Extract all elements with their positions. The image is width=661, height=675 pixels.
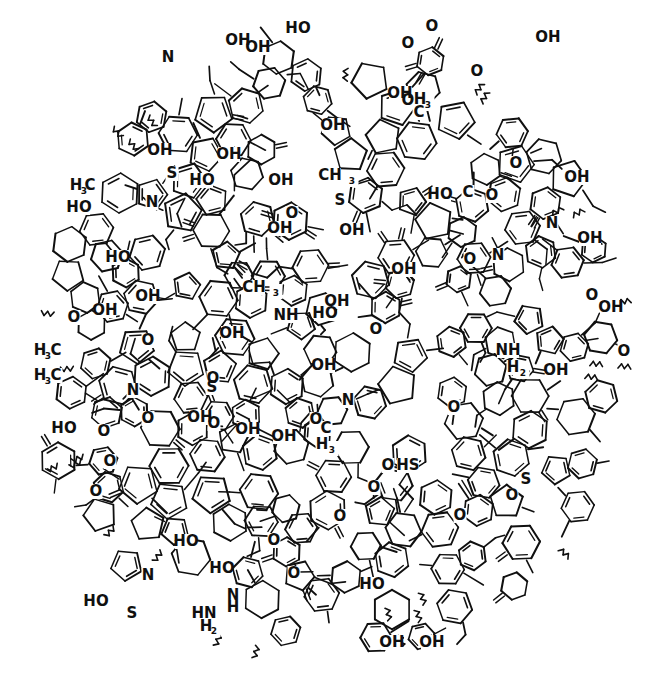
atom-label-ho: HO bbox=[209, 559, 234, 577]
atom-label-o: O bbox=[90, 482, 103, 500]
atom-label-c: C bbox=[413, 103, 424, 121]
atom-label-3: 3 bbox=[425, 100, 431, 110]
atom-label-o: O bbox=[334, 507, 347, 525]
atom-label-hs: HS bbox=[396, 456, 419, 474]
atom-label-c: C bbox=[462, 183, 473, 201]
atom-label-o: O bbox=[268, 531, 281, 549]
atom-label-3: 3 bbox=[329, 445, 335, 455]
atom-label-ho: HO bbox=[285, 19, 310, 37]
atom-label-nh: NH bbox=[495, 341, 520, 359]
atom-label-o: O bbox=[506, 486, 519, 504]
atom-label-o: O bbox=[510, 154, 523, 172]
atom-label-n: N bbox=[492, 246, 505, 264]
atom-label-ho: HO bbox=[189, 171, 214, 189]
atom-label-o: O bbox=[370, 320, 383, 338]
atom-label-oh: OH bbox=[219, 324, 244, 342]
atom-label-o: O bbox=[104, 452, 117, 470]
atom-label-oh: OH bbox=[564, 168, 589, 186]
atom-label-ho: HO bbox=[359, 575, 384, 593]
atom-label-oh: OH bbox=[267, 219, 292, 237]
atom-label-oh: OH bbox=[535, 28, 560, 46]
atom-label-ho: HO bbox=[173, 532, 198, 550]
atom-label-oh: OH bbox=[311, 356, 336, 374]
atom-label-o: O bbox=[618, 342, 631, 360]
atom-label-o: O bbox=[68, 308, 81, 326]
atom-label-oh: OH bbox=[339, 221, 364, 239]
atom-label-oh: OH bbox=[216, 145, 241, 163]
atom-label-o: O bbox=[208, 414, 221, 432]
atom-label-s: S bbox=[127, 604, 138, 622]
atom-label-o: O bbox=[98, 422, 111, 440]
atom-label-2: 2 bbox=[520, 368, 526, 378]
atom-label-n: N bbox=[146, 193, 159, 211]
atom-label-n: N bbox=[546, 214, 559, 232]
atom-label-oh: OH bbox=[379, 633, 404, 651]
atom-label-n: N bbox=[342, 391, 355, 409]
atom-label-c: C bbox=[84, 176, 95, 194]
atom-label-nh: NH bbox=[273, 306, 298, 324]
atom-label-oh: OH bbox=[135, 287, 160, 305]
atom-label-oh: OH bbox=[147, 141, 172, 159]
atom-label-s: S bbox=[521, 470, 532, 488]
atom-label-h: H bbox=[507, 358, 520, 376]
atom-label-o: O bbox=[288, 564, 301, 582]
atom-label-h: H bbox=[227, 598, 240, 616]
skeletal-structure-drawing: NOHOHHOOOOOHOOHH3COHSH3CHONOHOHHOOHCH3SO… bbox=[0, 0, 661, 675]
atom-label-ho: HO bbox=[51, 419, 76, 437]
atom-label-o: O bbox=[426, 17, 439, 35]
chemical-structure-figure: NOHOHHOOOOOHOOHH3COHSH3CHONOHOHHOOHCH3SO… bbox=[0, 0, 661, 675]
atom-label-o: O bbox=[142, 409, 155, 427]
atom-label-3: 3 bbox=[349, 176, 355, 186]
atom-label-o: O bbox=[402, 34, 415, 52]
atom-label-o: O bbox=[382, 456, 395, 474]
atom-label-ch: CH bbox=[318, 166, 342, 184]
atom-label-ho: HO bbox=[105, 248, 130, 266]
atom-label-o: O bbox=[586, 286, 599, 304]
atom-label-oh: OH bbox=[92, 301, 117, 319]
atom-label-o: O bbox=[471, 62, 484, 80]
atom-label-oh: OH bbox=[245, 38, 270, 56]
atom-label-s: S bbox=[207, 378, 218, 396]
atom-label-o: O bbox=[142, 331, 155, 349]
atom-label-h: H bbox=[316, 435, 329, 453]
atom-label-oh: OH bbox=[387, 84, 412, 102]
atom-label-oh: OH bbox=[543, 361, 568, 379]
atom-label-ho: HO bbox=[83, 592, 108, 610]
atom-label-n: N bbox=[142, 566, 155, 584]
atom-label-oh: OH bbox=[419, 633, 444, 651]
atom-label-o: O bbox=[448, 398, 461, 416]
atom-label-n: N bbox=[162, 48, 175, 66]
atom-label-ho: HO bbox=[427, 185, 452, 203]
atom-label-oh: OH bbox=[577, 229, 602, 247]
atom-label-s: S bbox=[167, 164, 178, 182]
atom-label-oh: OH bbox=[320, 116, 345, 134]
atom-label-c: C bbox=[50, 341, 61, 359]
atom-label-o: O bbox=[486, 186, 499, 204]
atom-label-ho: HO bbox=[66, 198, 91, 216]
atom-label-oh: OH bbox=[598, 298, 623, 316]
atom-label-2: 2 bbox=[211, 626, 217, 636]
atom-label-oh: OH bbox=[271, 427, 296, 445]
atom-label-n: N bbox=[127, 381, 140, 399]
atom-label-ho: HO bbox=[312, 304, 337, 322]
atom-label-s: S bbox=[335, 191, 346, 209]
atom-label-o: O bbox=[368, 478, 381, 496]
atom-label-oh: OH bbox=[391, 260, 416, 278]
atom-label-3: 3 bbox=[273, 288, 279, 298]
atom-label-o: O bbox=[464, 250, 477, 268]
atom-label-ch: CH bbox=[242, 278, 266, 296]
atom-label-oh: OH bbox=[268, 171, 293, 189]
atom-label-o: O bbox=[454, 506, 467, 524]
atom-label-c: C bbox=[50, 366, 61, 384]
atom-label-oh: OH bbox=[235, 420, 260, 438]
